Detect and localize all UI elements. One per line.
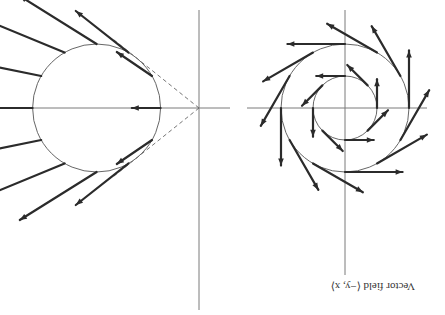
- vector-arrow: [322, 131, 342, 151]
- arrow-shaft: [261, 76, 290, 126]
- arrowhead-icon: [423, 90, 429, 97]
- panel-rotational-field: Vector field ⟨−y, x⟩: [247, 10, 429, 293]
- vector-arrow: [261, 76, 290, 126]
- arrow-shaft: [20, 172, 97, 220]
- vector-arrow: [368, 110, 388, 130]
- vector-arrow: [132, 105, 161, 111]
- arrowhead-icon: [310, 130, 316, 137]
- vector-arrow: [0, 51, 41, 76]
- arrowhead-icon: [278, 159, 284, 166]
- arrow-shaft: [0, 52, 41, 76]
- arrow-shaft: [76, 163, 129, 205]
- arrowhead-icon: [263, 75, 270, 81]
- vector-arrow: [310, 108, 316, 137]
- vector-arrow: [20, 172, 97, 220]
- arrow-shaft: [0, 140, 41, 164]
- arrowhead-icon: [406, 50, 412, 57]
- vector-arrow: [287, 41, 345, 47]
- arrowhead-icon: [312, 182, 318, 189]
- arrow-shaft: [327, 24, 377, 53]
- vector-field-figure: Vector field ⟨−y, x⟩: [0, 0, 445, 315]
- arrowhead-icon: [367, 137, 374, 143]
- panel-radial-field: [0, 0, 230, 310]
- vector-arrow: [347, 65, 367, 85]
- vector-arrow: [345, 169, 403, 175]
- vector-arrow: [117, 52, 152, 76]
- panel-caption: Vector field ⟨−y, x⟩: [331, 281, 415, 293]
- vector-arrow: [117, 140, 152, 164]
- arrowhead-icon: [287, 41, 294, 47]
- arrowhead-icon: [374, 79, 380, 86]
- arrow-shaft: [400, 90, 429, 140]
- figure-rotated-group: Vector field ⟨−y, x⟩: [0, 0, 429, 310]
- arrowhead-icon: [396, 169, 403, 175]
- arrowhead-icon: [132, 105, 139, 111]
- arrowhead-icon: [261, 118, 267, 125]
- arrow-shaft: [76, 11, 129, 53]
- arrowhead-icon: [419, 135, 426, 141]
- arrowhead-icon: [355, 186, 362, 192]
- vector-arrow: [0, 140, 41, 165]
- arrowhead-icon: [316, 73, 323, 79]
- vector-arrow: [374, 79, 380, 108]
- vector-arrow: [400, 90, 429, 140]
- arrowhead-icon: [372, 26, 378, 33]
- vector-arrow: [278, 108, 284, 166]
- vector-arrow: [302, 85, 322, 105]
- arrowhead-icon: [327, 24, 334, 30]
- vector-arrow: [20, 0, 97, 44]
- vector-arrow: [76, 163, 129, 205]
- vector-arrow: [76, 11, 129, 53]
- vector-arrow: [406, 50, 412, 108]
- arrow-shaft: [313, 163, 363, 192]
- vector-arrow: [345, 137, 374, 143]
- vector-arrow: [313, 163, 363, 192]
- arrow-shaft: [20, 0, 97, 44]
- vector-arrow: [0, 105, 33, 111]
- vector-arrow: [327, 24, 377, 53]
- vector-arrow: [316, 73, 345, 79]
